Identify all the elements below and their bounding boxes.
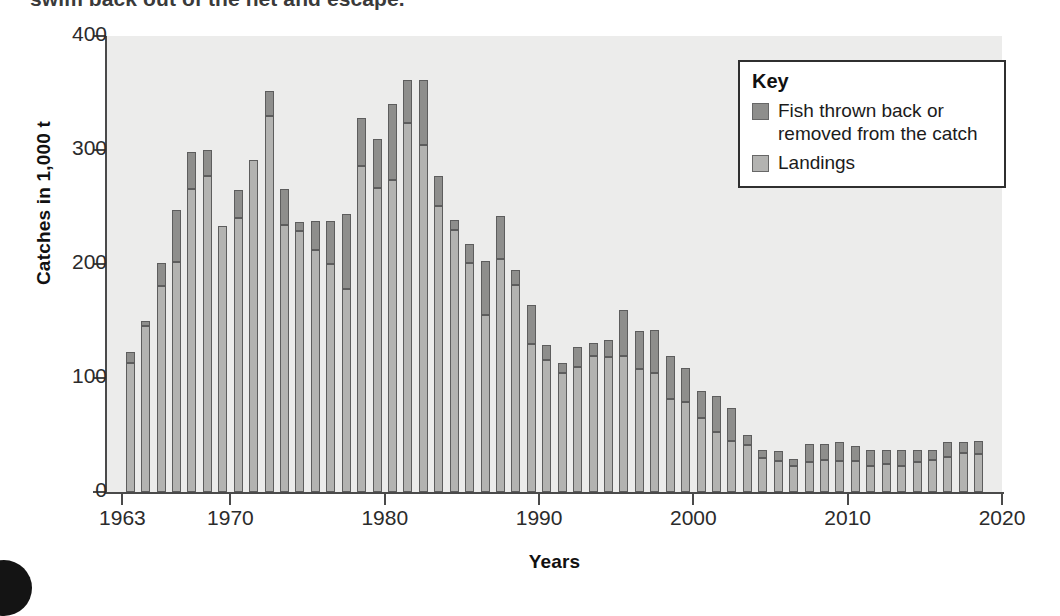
bar-segment-landings [265, 116, 274, 492]
bar-segment-thrown-back [465, 244, 474, 263]
legend-item: Fish thrown back or removed from the cat… [752, 99, 992, 145]
bar-segment-landings [866, 466, 875, 492]
bar-stack [465, 36, 474, 492]
bar-segment-landings [573, 367, 582, 492]
bar-segment-thrown-back [234, 190, 243, 219]
bar-segment-landings [295, 231, 304, 492]
x-axis-tick-label: 2010 [788, 506, 908, 530]
bar-segment-landings [820, 460, 829, 492]
x-axis-tick-label: 1980 [325, 506, 445, 530]
bar-segment-thrown-back [758, 450, 767, 458]
legend-item: Landings [752, 151, 992, 174]
bar-segment-landings [450, 230, 459, 492]
bar-segment-thrown-back [866, 450, 875, 466]
legend-swatch-thrown [752, 103, 769, 120]
bar-stack [311, 36, 320, 492]
bar-stack [419, 36, 428, 492]
x-axis-line [105, 492, 1004, 494]
y-axis-tick-label: 300 [21, 136, 107, 160]
bar-stack [496, 36, 505, 492]
bar-segment-landings [851, 461, 860, 492]
legend-title: Key [752, 70, 992, 93]
x-axis-tick [1001, 493, 1003, 505]
bar-segment-thrown-back [913, 450, 922, 463]
bar-segment-landings [157, 286, 166, 492]
bar-segment-landings [311, 250, 320, 492]
x-axis-tick [384, 493, 386, 505]
bar-segment-landings [434, 206, 443, 492]
bar-segment-landings [635, 369, 644, 492]
bar-segment-landings [604, 357, 613, 492]
x-axis-tick [538, 493, 540, 505]
bar-stack [218, 36, 227, 492]
bar-segment-landings [650, 373, 659, 492]
bar-segment-thrown-back [203, 150, 212, 176]
bar-segment-thrown-back [851, 446, 860, 461]
bar-stack [157, 36, 166, 492]
bar-segment-thrown-back [511, 270, 520, 285]
bar-segment-landings [172, 262, 181, 492]
bar-segment-landings [218, 226, 227, 492]
bar-segment-thrown-back [573, 347, 582, 366]
bar-stack [666, 36, 675, 492]
bar-segment-thrown-back [481, 261, 490, 316]
y-axis-tick-label: 100 [21, 364, 107, 388]
bar-stack [172, 36, 181, 492]
bar-stack [542, 36, 551, 492]
bar-segment-thrown-back [604, 340, 613, 357]
bar-segment-landings [280, 225, 289, 492]
bar-segment-landings [712, 432, 721, 492]
bar-segment-thrown-back [882, 450, 891, 464]
bar-segment-thrown-back [974, 441, 983, 455]
bar-segment-landings [774, 461, 783, 492]
bar-segment-landings [542, 360, 551, 492]
bar-stack [589, 36, 598, 492]
y-axis-tick-label: 200 [21, 250, 107, 274]
bar-segment-thrown-back [805, 444, 814, 462]
bar-segment-landings [666, 399, 675, 492]
bar-segment-thrown-back [666, 356, 675, 398]
bar-segment-thrown-back [635, 331, 644, 369]
bar-segment-thrown-back [280, 189, 289, 225]
bar-segment-landings [913, 462, 922, 492]
legend-item-label: Fish thrown back or removed from the cat… [778, 99, 992, 145]
x-axis-tick-label: 1970 [170, 506, 290, 530]
bar-segment-thrown-back [928, 450, 937, 460]
bar-segment-thrown-back [589, 343, 598, 357]
bar-segment-thrown-back [419, 80, 428, 145]
bar-segment-landings [511, 285, 520, 492]
bar-segment-thrown-back [897, 450, 906, 466]
bar-segment-thrown-back [619, 310, 628, 357]
bar-stack [234, 36, 243, 492]
bar-stack [635, 36, 644, 492]
bar-segment-landings [943, 457, 952, 492]
bar-stack [342, 36, 351, 492]
bar-stack [527, 36, 536, 492]
bar-segment-thrown-back [650, 330, 659, 373]
bar-segment-landings [835, 461, 844, 492]
bar-segment-thrown-back [172, 210, 181, 261]
bar-stack [388, 36, 397, 492]
bar-segment-thrown-back [373, 139, 382, 188]
bar-segment-thrown-back [697, 391, 706, 418]
bar-stack [434, 36, 443, 492]
cut-off-top-sentence-text: swim back out of the net and escape. [0, 0, 1060, 11]
bar-stack [619, 36, 628, 492]
bar-segment-landings [619, 356, 628, 492]
bar-segment-landings [897, 466, 906, 492]
bar-segment-landings [249, 160, 258, 492]
bar-stack [126, 36, 135, 492]
bar-segment-thrown-back [542, 345, 551, 360]
bar-stack [481, 36, 490, 492]
x-axis-tick [121, 493, 123, 505]
x-axis-tick [692, 493, 694, 505]
bar-segment-landings [805, 462, 814, 492]
bar-stack [697, 36, 706, 492]
bar-segment-landings [743, 445, 752, 492]
x-axis-tick-label: 1990 [479, 506, 599, 530]
bar-segment-landings [589, 356, 598, 492]
bar-segment-landings [697, 418, 706, 492]
bar-segment-landings [496, 259, 505, 492]
bar-stack [295, 36, 304, 492]
bar-stack [650, 36, 659, 492]
